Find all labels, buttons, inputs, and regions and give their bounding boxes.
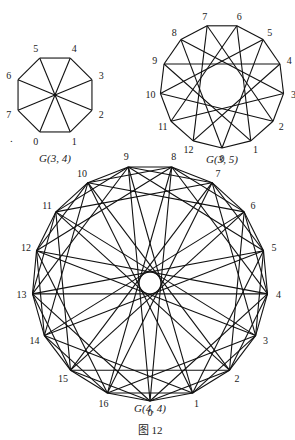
graph-g34: 01234567G(3, 4)	[6, 43, 103, 165]
edge	[280, 64, 284, 93]
edge	[193, 26, 207, 141]
edge	[150, 294, 267, 401]
vertex-label: 12	[21, 242, 31, 253]
edge	[193, 141, 222, 148]
figure-caption: 图 12	[138, 424, 163, 436]
edge	[107, 393, 150, 401]
graph-caption: G(3, 5)	[206, 153, 238, 166]
vertex-label: 13	[17, 289, 27, 300]
vertex-label: 5	[267, 27, 272, 38]
edge	[251, 121, 273, 141]
edge	[33, 294, 150, 401]
vertex-label: 6	[6, 70, 11, 81]
edge	[18, 58, 40, 80]
edge	[44, 251, 263, 336]
edge	[70, 110, 92, 132]
edge	[56, 183, 88, 212]
vertex-label: 7	[215, 168, 220, 179]
vertex-label: 2	[234, 373, 239, 384]
vertex-label: 3	[291, 89, 295, 100]
vertex-label: 10	[146, 89, 156, 100]
edge	[37, 183, 88, 251]
edge	[150, 393, 193, 401]
vertex-label: 6	[237, 11, 242, 22]
vertex-label: 11	[158, 121, 168, 132]
vertex-label: 10	[77, 168, 87, 179]
edge	[56, 212, 230, 370]
stray-dot: .	[10, 132, 13, 144]
vertex-label: 16	[98, 398, 108, 409]
vertex-label: 9	[124, 151, 129, 162]
edge	[164, 40, 181, 64]
edge	[212, 183, 263, 251]
edge	[150, 370, 229, 401]
edge	[70, 58, 92, 80]
vertex-label: 7	[202, 11, 207, 22]
edge	[193, 336, 256, 393]
vertex-label: 2	[279, 121, 284, 132]
edge	[193, 64, 280, 141]
graph-group: 01234567G(3, 4)0123456789101112G(3, 5)01…	[6, 11, 295, 418]
vertex-label: 0	[33, 136, 38, 147]
edge	[71, 370, 150, 401]
graph-caption: G(3, 4)	[39, 152, 71, 165]
edge	[160, 64, 164, 93]
vertex-label: 1	[253, 144, 258, 155]
vertex-label: 7	[6, 109, 11, 120]
vertex-label: 9	[152, 55, 157, 66]
edge	[150, 167, 172, 401]
vertex-label: 3	[99, 70, 104, 81]
edge	[18, 110, 40, 132]
edge	[160, 93, 171, 121]
vertex-label: 8	[172, 27, 177, 38]
vertex-label: 11	[42, 200, 52, 211]
edge	[263, 40, 280, 64]
edge	[71, 212, 245, 370]
vertex-label: 4	[276, 289, 281, 300]
vertex-label: 14	[30, 335, 40, 346]
vertex-label: 4	[287, 55, 292, 66]
vertex-label: 8	[171, 151, 176, 162]
vertex-label: 5	[272, 242, 277, 253]
vertex-label: 5	[33, 43, 38, 54]
graph-g35: 0123456789101112G(3, 5)	[146, 11, 295, 166]
edge	[37, 251, 256, 336]
edge	[128, 167, 150, 401]
vertex-label: 1	[72, 136, 77, 147]
edge	[171, 121, 193, 141]
graph-g44: 012345678910111213141516G(4, 4)	[17, 151, 281, 418]
edge	[181, 26, 207, 40]
edge	[56, 212, 71, 370]
edge	[273, 93, 284, 121]
edge	[229, 212, 244, 370]
edge	[237, 26, 251, 141]
edge	[164, 64, 251, 141]
edge	[44, 336, 107, 393]
graph-caption: G(4, 4)	[134, 402, 166, 415]
vertex-label: 2	[99, 109, 104, 120]
edge	[88, 183, 193, 393]
figure-canvas: 01234567G(3, 4)0123456789101112G(3, 5)01…	[0, 0, 295, 440]
vertex-label: 15	[58, 373, 68, 384]
edge	[212, 183, 244, 212]
vertex-label: 4	[72, 43, 77, 54]
vertex-label: 6	[250, 200, 255, 211]
edge	[222, 141, 251, 148]
vertex-label: 12	[184, 144, 194, 155]
vertex-label: 3	[263, 335, 268, 346]
edge	[107, 183, 212, 393]
vertex-label: 1	[194, 398, 199, 409]
edge	[237, 26, 263, 40]
